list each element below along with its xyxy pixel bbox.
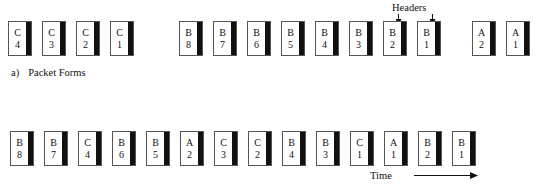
packet-a2: A2 xyxy=(472,21,496,56)
packet-number: 8 xyxy=(17,150,22,160)
packet-number: 2 xyxy=(187,150,192,160)
packet-number: 4 xyxy=(289,150,294,160)
caption-text: Packet Forms xyxy=(28,67,85,78)
packet-letter: C xyxy=(84,138,91,148)
packet-number: 5 xyxy=(153,150,158,160)
packet-number: 1 xyxy=(513,40,518,50)
packet-letter: A xyxy=(512,28,519,38)
packet-number: 1 xyxy=(357,150,362,160)
packet-number: 4 xyxy=(85,150,90,160)
packet-letter: A xyxy=(478,28,485,38)
packet-letter: B xyxy=(118,138,125,148)
packet-header-stripe-icon xyxy=(490,22,495,55)
packet-number: 2 xyxy=(479,40,484,50)
packet-letter: A xyxy=(186,138,193,148)
packet-number: 3 xyxy=(323,150,328,160)
packet-letter: B xyxy=(50,138,57,148)
packet-letter: B xyxy=(424,138,431,148)
packet-switching-figure: Headers C4C3C2C1B8B7B6B5B4B3B2B1A2A1 a)P… xyxy=(0,0,540,193)
packet-letter: A xyxy=(390,138,397,148)
packet-number: 2 xyxy=(255,150,260,160)
packet-body: A2 xyxy=(473,22,490,55)
packet-number: 3 xyxy=(221,150,226,160)
group-a: A2A1 xyxy=(0,21,540,56)
packet-letter: B xyxy=(16,138,23,148)
packet-number: 7 xyxy=(51,150,56,160)
packet-letter: B xyxy=(322,138,329,148)
packet-number: 1 xyxy=(459,150,464,160)
packet-letter: C xyxy=(220,138,227,148)
packet-number: 6 xyxy=(119,150,124,160)
caption-tag: a) xyxy=(11,67,19,78)
packet-letter: B xyxy=(152,138,159,148)
packet-body: A1 xyxy=(507,22,524,55)
packet-number: 2 xyxy=(425,150,430,160)
packet-header-stripe-icon xyxy=(524,22,529,55)
packet-letter: C xyxy=(356,138,363,148)
time-axis-arrow xyxy=(0,160,540,188)
packet-forms-row: C4C3C2C1B8B7B6B5B4B3B2B1A2A1 xyxy=(0,21,540,61)
figure-caption: a)Packet Forms xyxy=(11,67,86,78)
packet-number: 1 xyxy=(391,150,396,160)
packet-letter: B xyxy=(458,138,465,148)
packet-letter: C xyxy=(254,138,261,148)
packet-letter: B xyxy=(288,138,295,148)
packet-a1: A1 xyxy=(506,21,530,56)
